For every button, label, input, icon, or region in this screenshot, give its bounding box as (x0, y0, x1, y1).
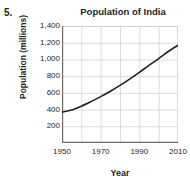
y-tick-label: 800 (28, 72, 60, 80)
problem-number: 5. (4, 8, 12, 18)
y-tick-label: 1,400 (28, 22, 60, 30)
chart-title: Population of India (56, 7, 190, 17)
x-axis-title: Year (62, 168, 178, 178)
chart-plot-svg (62, 26, 178, 143)
x-axis-tick-labels: 1950197019902010 (62, 148, 178, 162)
y-tick-label: 1,200 (28, 39, 60, 47)
y-tick-label: 200 (28, 122, 60, 130)
chart-figure: 5. Population of India Population (milli… (0, 0, 190, 185)
y-tick-label: 400 (28, 106, 60, 114)
y-tick-label: 600 (28, 89, 60, 97)
x-tick-label: 1970 (84, 148, 118, 156)
x-tick-label: 1950 (45, 148, 79, 156)
x-tick-label: 1990 (122, 148, 156, 156)
plot-area (62, 26, 178, 143)
x-tick-label: 2010 (161, 148, 190, 156)
data-line-population (62, 45, 178, 112)
y-tick-label: 1,000 (28, 55, 60, 63)
y-axis-tick-labels: 2004006008001,0001,2001,400 (26, 0, 60, 185)
